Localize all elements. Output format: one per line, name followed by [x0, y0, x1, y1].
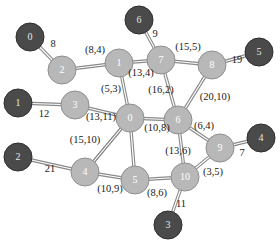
node-label: 1 — [117, 57, 122, 68]
node-label: 4 — [259, 132, 264, 143]
node-label: 6 — [137, 14, 142, 25]
graph-node[interactable]: 3 — [154, 211, 182, 239]
node-label: 0 — [28, 31, 33, 42]
edge-weight-label: (13,6) — [165, 145, 191, 157]
node-label: 2 — [16, 151, 21, 162]
edge-weight-label: (3,5) — [203, 166, 224, 178]
edge-weight-label: (8,4) — [85, 44, 106, 56]
graph-node[interactable]: 8 — [198, 51, 226, 79]
edge-weight-label: (15,5) — [175, 41, 201, 53]
node-label: 6 — [176, 114, 181, 125]
edge-weight-label: (5,3) — [101, 83, 122, 95]
graph-node[interactable]: 9 — [206, 134, 234, 162]
node-label: 5 — [257, 46, 262, 57]
graph-node[interactable]: 3 — [61, 91, 89, 119]
edge-weight-label: (13,11) — [86, 111, 117, 123]
edge-weight-label: (16,2) — [148, 84, 174, 96]
edge-weight-label: (6,4) — [194, 120, 215, 132]
node-label: 3 — [73, 99, 78, 110]
node-label: 5 — [133, 174, 138, 185]
graph-node[interactable]: 0 — [16, 23, 44, 51]
edge-weight-label: (10,8) — [144, 122, 170, 134]
graph-node[interactable]: 0 — [116, 104, 144, 132]
node-label: 3 — [166, 219, 171, 230]
edge-weight-label: (13,4) — [128, 67, 154, 79]
node-label: 8 — [210, 59, 215, 70]
graph-canvas: 0216785130694245103 8(8,4)9(13,4)(15,5)1… — [0, 0, 280, 245]
node-label: 4 — [83, 166, 88, 177]
edge-weight-label: 9 — [152, 28, 157, 39]
graph-node[interactable]: 2 — [48, 56, 76, 84]
edge-weight-label: 21 — [45, 163, 56, 174]
graph-node[interactable]: 4 — [247, 124, 275, 152]
graph-node[interactable]: 1 — [4, 89, 32, 117]
graph-node[interactable]: 4 — [71, 158, 99, 186]
node-label: 0 — [128, 112, 133, 123]
edge-weight-label: 11 — [176, 198, 186, 209]
edge-weight-label: 8 — [50, 38, 55, 49]
node-label: 7 — [159, 54, 164, 65]
edge-weight-label: 19 — [232, 54, 243, 65]
edge-weight-label: (20,10) — [200, 91, 231, 103]
edge-weight-label: (8,6) — [147, 187, 168, 199]
node-label: 9 — [218, 142, 223, 153]
graph-node[interactable]: 6 — [125, 6, 153, 34]
edge-weight-label: 12 — [39, 108, 50, 119]
edge-weight-label: (15,10) — [70, 134, 101, 146]
network-graph-svg: 0216785130694245103 8(8,4)9(13,4)(15,5)1… — [0, 0, 280, 245]
node-label: 1 — [16, 97, 21, 108]
graph-node[interactable]: 5 — [245, 38, 273, 66]
nodes-layer: 0216785130694245103 — [4, 6, 275, 239]
edge-weight-label: (10,9) — [97, 183, 123, 195]
node-label: 2 — [60, 64, 65, 75]
edge-weight-label: 7 — [239, 147, 244, 158]
graph-node[interactable]: 2 — [4, 143, 32, 171]
graph-node[interactable]: 5 — [121, 166, 149, 194]
node-label: 10 — [180, 171, 190, 182]
graph-node[interactable]: 10 — [171, 163, 199, 191]
